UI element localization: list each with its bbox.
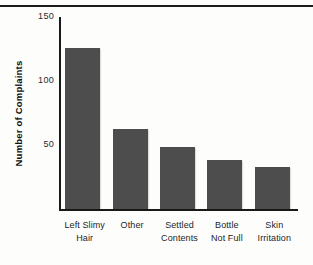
x-category-label-line: Skin — [245, 219, 304, 232]
x-category-label-line: Hair — [55, 232, 114, 245]
y-axis-tick-labels: 50100150 — [0, 0, 54, 265]
y-tick-label: 50 — [43, 140, 54, 149]
x-category-label: SkinIrritation — [245, 219, 304, 245]
x-category-label-line: Irritation — [245, 232, 304, 245]
x-axis-category-labels: Left SlimyHairOtherSettledContentsBottle… — [61, 219, 298, 261]
bar-chart-figure: Number of Complaints 50100150 Left Slimy… — [0, 0, 313, 265]
y-tick-label: 100 — [38, 76, 54, 85]
bar — [255, 167, 290, 209]
y-tick-label: 150 — [38, 12, 54, 21]
x-axis-line — [59, 209, 298, 211]
bar — [65, 48, 100, 209]
bar — [113, 129, 148, 209]
bar-series — [61, 16, 298, 209]
bar — [207, 160, 242, 209]
bar — [160, 147, 195, 209]
